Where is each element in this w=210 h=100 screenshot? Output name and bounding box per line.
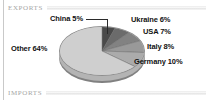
pie-slices-svg	[60, 27, 144, 75]
pie-chart: China 5% Ukraine 6% USA 7% Italy 8% Germ…	[0, 12, 210, 88]
header-divider-rule	[47, 6, 206, 10]
imports-section-header: IMPORTS	[8, 87, 206, 98]
china-leader-line-horizontal	[86, 19, 108, 20]
exports-chart-screenshot: EXPORTS China 5% Ukraine 6% USA 7% Italy…	[0, 0, 210, 100]
pie-label-germany: Germany 10%	[134, 57, 183, 66]
pie-label-other: Other 64%	[11, 44, 47, 53]
pie-label-ukraine: Ukraine 6%	[131, 15, 170, 24]
footer-divider-rule	[46, 91, 206, 95]
pie-top-face	[59, 26, 145, 76]
china-leader-line-vertical	[107, 19, 108, 34]
pie-label-italy: Italy 8%	[147, 42, 174, 51]
exports-header-label: EXPORTS	[8, 4, 43, 12]
pie-label-usa: USA 7%	[143, 27, 171, 36]
pie-graphic	[59, 26, 145, 82]
pie-label-china: China 5%	[50, 14, 83, 23]
imports-header-label: IMPORTS	[8, 89, 42, 97]
